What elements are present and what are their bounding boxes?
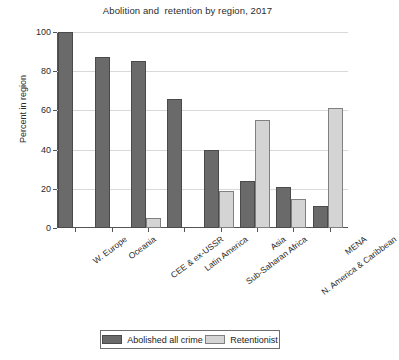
- y-tick-mark: [53, 110, 57, 111]
- x-tick-mark: [112, 228, 113, 232]
- legend-item: Abolished all crime: [102, 335, 203, 345]
- bar: [240, 181, 255, 228]
- bar: [167, 99, 182, 228]
- bar: [58, 32, 73, 228]
- y-tick-label: 80: [41, 66, 51, 76]
- plot-area: 020406080100: [57, 32, 348, 228]
- y-tick-label: 100: [36, 27, 51, 37]
- legend-label: Abolished all crime: [127, 335, 203, 345]
- y-tick-mark: [53, 32, 57, 33]
- legend-item: Retentionist: [205, 335, 278, 345]
- y-tick-mark: [53, 228, 57, 229]
- x-category-label: W. Europe: [91, 234, 129, 266]
- legend-swatch-abolished-icon: [102, 335, 122, 344]
- y-tick-mark: [53, 71, 57, 72]
- x-tick-mark: [75, 228, 76, 232]
- x-category-label: Oceania: [126, 234, 157, 261]
- bar: [131, 61, 146, 228]
- chart-title: Abolition and retention by region, 2017: [0, 5, 375, 16]
- bar: [276, 187, 291, 228]
- y-tick-label: 40: [41, 145, 51, 155]
- x-tick-mark: [184, 228, 185, 232]
- y-axis-title: Percent in region: [18, 49, 28, 169]
- bar: [146, 218, 161, 228]
- x-tick-mark: [148, 228, 149, 232]
- y-tick-label: 60: [41, 105, 51, 115]
- bar: [255, 120, 270, 228]
- bar: [291, 199, 306, 228]
- gridline: [57, 32, 348, 33]
- bar: [328, 108, 343, 228]
- legend-swatch-retentionist-icon: [205, 335, 225, 344]
- x-tick-mark: [257, 228, 258, 232]
- bar: [219, 191, 234, 228]
- bar: [204, 150, 219, 228]
- x-tick-mark: [293, 228, 294, 232]
- chart-legend: Abolished all crimeRetentionist: [100, 330, 280, 349]
- bar: [95, 57, 110, 228]
- y-tick-label: 20: [41, 184, 51, 194]
- x-tick-mark: [330, 228, 331, 232]
- y-tick-label: 0: [46, 223, 51, 233]
- legend-label: Retentionist: [230, 335, 278, 345]
- x-tick-mark: [221, 228, 222, 232]
- bar: [313, 206, 328, 228]
- y-tick-mark: [53, 150, 57, 151]
- y-tick-mark: [53, 189, 57, 190]
